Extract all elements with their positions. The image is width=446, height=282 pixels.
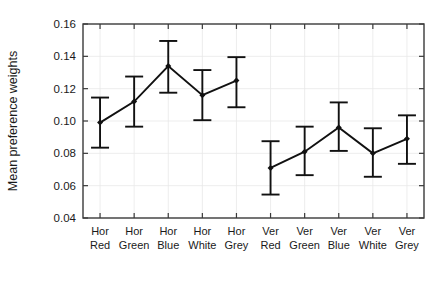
x-tick-label-orientation: Ver (365, 225, 382, 237)
x-tick-label-orientation: Hor (91, 225, 109, 237)
x-tick-label-orientation: Ver (296, 225, 313, 237)
x-tick-label-orientation: Hor (159, 225, 177, 237)
chart-figure: 0.160.140.120.100.080.060.04 HorRedHorGr… (0, 0, 446, 282)
x-tick-label-color: Blue (328, 239, 350, 251)
x-tick-label-color: White (188, 239, 216, 251)
x-tick-label-color: Red (90, 239, 110, 251)
y-tick-label: 0.04 (54, 212, 77, 224)
x-tick-label-orientation: Hor (228, 225, 246, 237)
y-tick-label: 0.16 (54, 18, 76, 30)
x-tick-label-color: Blue (157, 239, 179, 251)
y-tick-label: 0.10 (54, 115, 76, 127)
x-tick-label-color: Green (289, 239, 320, 251)
x-tick-label-color: Grey (225, 239, 249, 251)
x-tick-label-orientation: Ver (262, 225, 279, 237)
y-tick-label: 0.06 (54, 180, 76, 192)
x-tick-label-color: White (359, 239, 387, 251)
x-tick-label-orientation: Hor (125, 225, 143, 237)
x-tick-label-orientation: Ver (330, 225, 347, 237)
y-tick-label: 0.08 (54, 147, 76, 159)
y-tick-label: 0.12 (54, 83, 76, 95)
x-tick-label-orientation: Hor (193, 225, 211, 237)
x-tick-label-color: Red (260, 239, 280, 251)
x-tick-label-color: Grey (395, 239, 419, 251)
y-tick-label: 0.14 (54, 50, 77, 62)
y-axis-title: Mean preference weights (6, 51, 20, 191)
x-tick-label-orientation: Ver (399, 225, 416, 237)
x-tick-label-color: Green (119, 239, 150, 251)
